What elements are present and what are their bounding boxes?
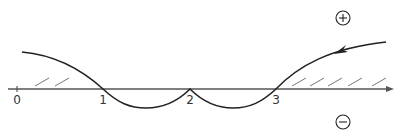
plus-circle-icon (336, 11, 350, 25)
hatch-right (292, 78, 386, 86)
hatch-left (35, 78, 69, 86)
axis-arrow-icon (386, 86, 394, 92)
sign-curve (22, 42, 386, 108)
tick-label-3: 3 (272, 93, 280, 107)
minus-circle-icon (336, 115, 350, 129)
tick-label-1: 1 (99, 93, 107, 107)
sign-diagram: 0 1 2 3 (0, 0, 400, 138)
tick-label-2: 2 (186, 93, 194, 107)
tick-label-0: 0 (13, 93, 21, 107)
x-axis (8, 86, 394, 92)
